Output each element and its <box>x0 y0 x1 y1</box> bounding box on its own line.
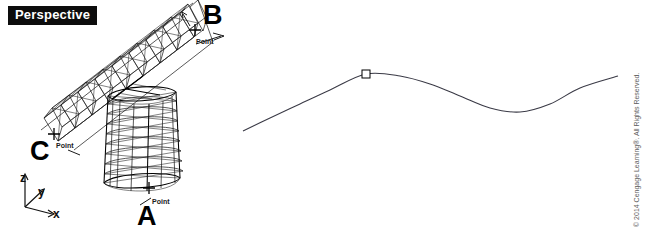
copyright-notice: © 2014 Cengage Learning®. All Rights Res… <box>633 73 641 227</box>
osnap-label-a: Point <box>152 198 170 206</box>
screenshot-canvas: Perspective A B C Point Point Point z y … <box>0 0 648 233</box>
osnap-label-c: Point <box>56 142 74 150</box>
axis-label-z: z <box>20 172 26 184</box>
curve-panel <box>243 70 618 131</box>
viewport-label-perspective[interactable]: Perspective <box>8 6 97 25</box>
vertical-tube-wireframe <box>104 76 183 191</box>
interpolated-curve <box>243 73 618 131</box>
control-point-marker <box>362 70 370 78</box>
axis-label-x: x <box>53 208 60 220</box>
axis-label-y: y <box>38 186 45 198</box>
callout-letter-c: C <box>30 138 50 165</box>
credit-container: © 2014 Cengage Learning®. All Rights Res… <box>636 57 646 227</box>
callout-letter-a: A <box>137 203 157 230</box>
wireframe-model <box>0 0 648 233</box>
osnap-label-b: Point <box>196 38 214 46</box>
figure-caption: FIGURE 6-8 Extruded tube shapes <box>7 231 142 233</box>
callout-letter-b: B <box>203 2 223 29</box>
